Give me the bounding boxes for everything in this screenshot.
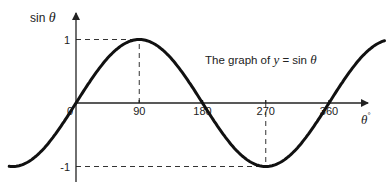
y-tick-label: -1 — [60, 161, 70, 173]
y-axis-label: sin θ — [30, 10, 56, 25]
x-tick-label: 270 — [257, 105, 275, 117]
chart-title: The graph of y = sin θ — [205, 52, 317, 67]
sine-graph: 090180270360 1-1 sin θ θ° The graph of y… — [0, 0, 387, 194]
x-axis-label: θ° — [361, 111, 371, 127]
x-tick-label: 90 — [133, 105, 145, 117]
y-axis-ticks: 1-1 — [60, 34, 70, 173]
y-tick-label: 1 — [64, 34, 70, 46]
